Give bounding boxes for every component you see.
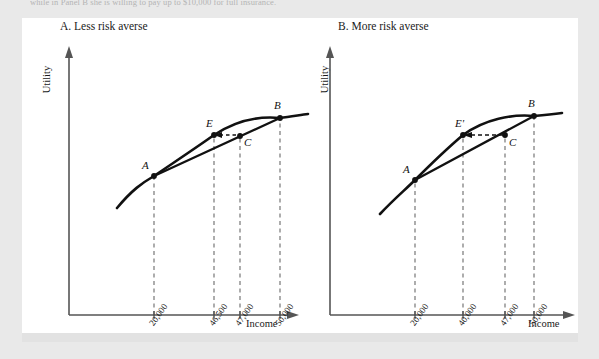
panel-b-chord-ab — [415, 116, 534, 180]
panel-a-chord-ab — [154, 118, 280, 176]
panel-b-plot — [300, 18, 578, 333]
panel-a-axes — [65, 46, 299, 319]
panel-b-axes — [326, 46, 575, 319]
panel-a-point-label-c: C — [244, 136, 251, 148]
page-body-text-fragment: while in Panel B she is willing to pay u… — [30, 0, 570, 8]
panel-a-less-risk-averse: A. Less risk averse Utility Income — [22, 18, 300, 333]
panel-b-point-label-e-prime: E' — [455, 117, 464, 129]
panel-a-drop-lines — [154, 120, 280, 315]
panel-a-plot — [22, 18, 300, 333]
panel-b-more-risk-averse: B. More risk averse Utility Income — [300, 18, 578, 333]
panel-a-point-label-a: A — [142, 159, 149, 171]
page-shadow-band — [22, 333, 578, 342]
panel-b-point-label-a: A — [403, 163, 410, 175]
panel-a-point-label-e: E — [206, 117, 213, 129]
panel-b-point-label-c: C — [509, 136, 516, 148]
figure-container: A. Less risk averse Utility Income — [22, 18, 578, 333]
panel-a-point-label-b: B — [274, 99, 281, 111]
panel-b-point-label-b: B — [528, 97, 535, 109]
